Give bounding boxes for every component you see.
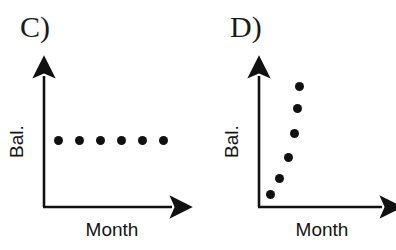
data-point bbox=[54, 136, 63, 145]
panel-c: C) Bal. Month bbox=[0, 0, 198, 250]
two-panel-scatter-figure: C) Bal. Month D) bbox=[0, 0, 396, 250]
data-point bbox=[275, 174, 284, 183]
data-point bbox=[284, 153, 293, 162]
data-point bbox=[75, 136, 84, 145]
data-point bbox=[159, 136, 168, 145]
data-point bbox=[295, 82, 304, 91]
panel-c-x-axis-title: Month bbox=[62, 220, 162, 239]
data-point bbox=[293, 104, 302, 113]
data-point bbox=[138, 136, 147, 145]
data-point bbox=[290, 129, 299, 138]
panel-d-x-axis-title: Month bbox=[272, 220, 372, 239]
data-point bbox=[117, 136, 126, 145]
data-point bbox=[96, 136, 105, 145]
panel-c-axes bbox=[0, 0, 198, 250]
data-point bbox=[266, 190, 275, 199]
panel-c-y-axis-title: Bal. bbox=[7, 112, 26, 172]
panel-d: D) Bal. Month bbox=[198, 0, 396, 250]
panel-d-y-axis-title: Bal. bbox=[222, 112, 241, 172]
